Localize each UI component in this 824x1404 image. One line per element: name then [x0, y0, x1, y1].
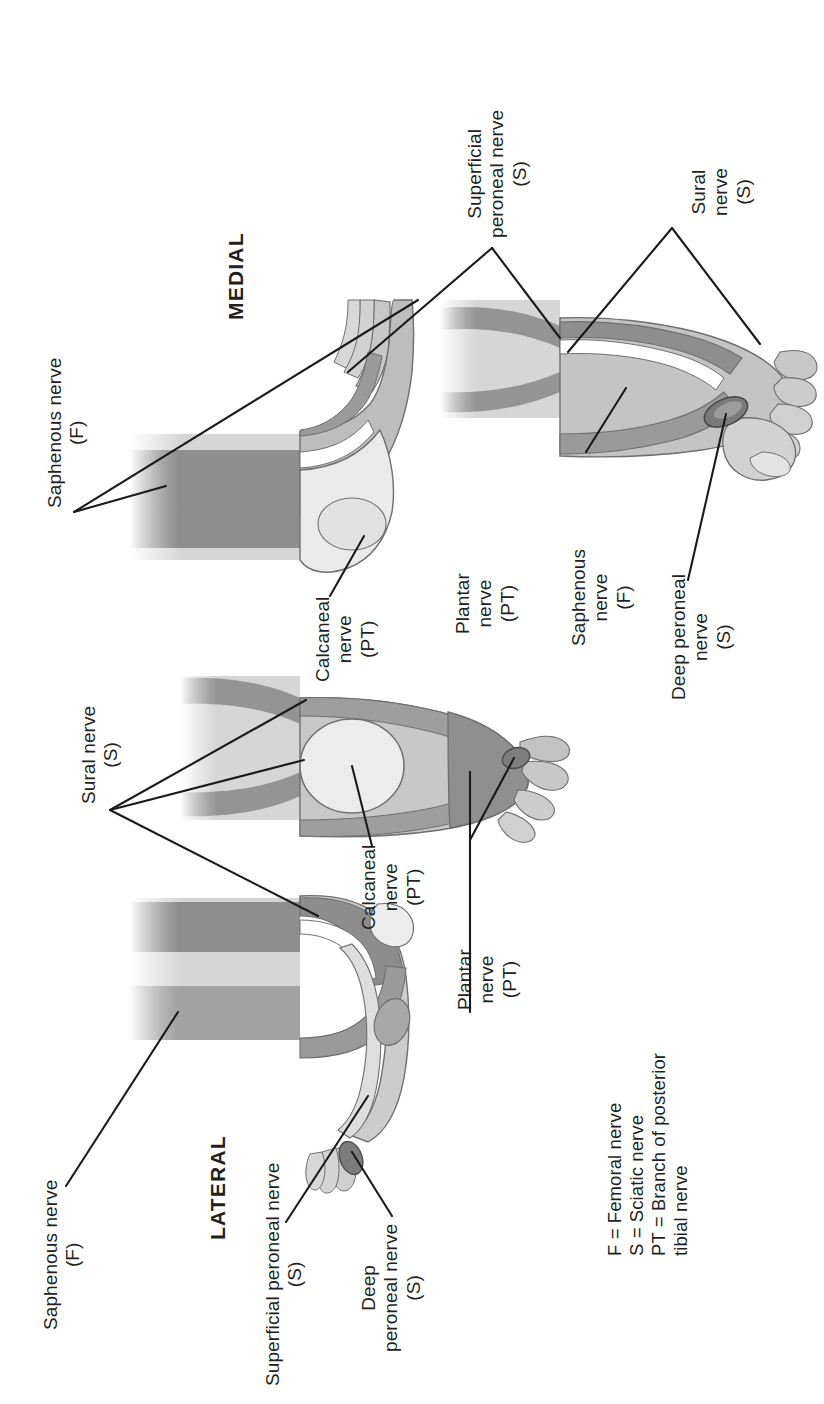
medial-foot-view — [130, 300, 414, 572]
heading-lateral: LATERAL — [206, 1135, 231, 1240]
label-superficial-peroneal-nerve-top: Superficial peroneal nerve (S) — [464, 110, 531, 238]
label-superficial-peroneal-nerve-bottom: Superficial peroneal nerve (S) — [262, 1163, 307, 1386]
label-calcaneal-nerve-upper: Calcaneal nerve (PT) — [312, 597, 379, 682]
plantar-foot-view — [180, 676, 570, 842]
figure-canvas: MEDIAL LATERAL Saphenous nerve (F) Sural… — [0, 0, 824, 1404]
dorsal-foot-view — [440, 300, 817, 480]
legend-line-2: S = Sciatic nerve — [626, 1115, 649, 1256]
label-calcaneal-nerve-lower: Calcaneal nerve (PT) — [358, 845, 425, 930]
label-sural-nerve-left: Sural nerve (S) — [78, 706, 123, 804]
legend-line-1: F = Femoral nerve — [604, 1103, 627, 1256]
heading-medial: MEDIAL — [224, 232, 249, 320]
legend-line-4: tibial nerve — [670, 1165, 693, 1256]
label-saphenous-nerve-bottom: Saphenous nerve (F) — [40, 1180, 85, 1330]
lateral-foot-view — [130, 896, 416, 1193]
label-saphenous-nerve-top: Saphenous nerve (F) — [44, 358, 89, 508]
label-deep-peroneal-nerve-right: Deep peroneal nerve (S) — [668, 574, 735, 700]
legend-line-3: PT = Branch of posterior — [648, 1053, 671, 1256]
label-saphenous-nerve-right: Saphenous nerve (F) — [568, 549, 635, 646]
label-sural-nerve-right: Sural nerve (S) — [688, 168, 755, 216]
label-plantar-nerve-upper: Plantar nerve (PT) — [452, 573, 519, 634]
label-plantar-nerve-lower: Plantar nerve (PT) — [454, 949, 521, 1010]
label-deep-peroneal-nerve-bottom: Deep peroneal nerve (S) — [358, 1224, 425, 1352]
